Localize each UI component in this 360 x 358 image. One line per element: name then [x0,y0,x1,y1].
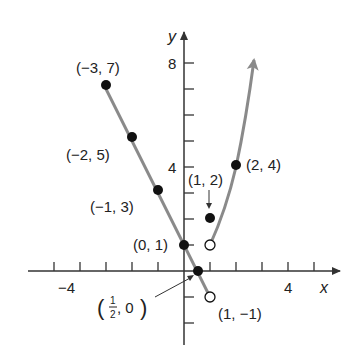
x-axis-label: x [319,279,329,296]
svg-text:1: 1 [110,295,116,306]
svg-text:(: ( [97,295,105,320]
label-0-1: (0, 1) [133,236,168,253]
x-tick-label-4: 4 [284,279,292,296]
axes [28,32,340,345]
point-neg1-3 [153,185,163,195]
point-0-1 [179,240,189,250]
label-half-0: ( 1 2 , 0 ) [97,295,147,320]
point-half-0 [193,266,203,276]
svg-text:, 0: , 0 [117,299,134,316]
open-point-1-1 [205,240,215,250]
y-tick-label-8: 8 [168,55,176,72]
point-2-4 [231,160,241,170]
label-neg2-5: (−2, 5) [66,146,110,163]
label-neg1-3: (−1, 3) [90,198,134,215]
piecewise-function-graph: x y −4 4 4 8 (−3, 7) (−2, 5) (−1, 3) (0,… [0,0,360,358]
y-axis-label: y [167,28,177,45]
label-1-neg1: (1, −1) [218,305,262,322]
label-2-4: (2, 4) [246,156,281,173]
open-point-1-neg1 [205,292,215,302]
label-neg3-7: (−3, 7) [76,59,120,76]
y-ticks [184,63,194,323]
points [101,80,241,302]
svg-text:): ) [140,295,147,320]
x-tick-label-neg4: −4 [58,279,75,296]
point-neg2-5 [127,132,137,142]
pointer-half-0 [155,277,192,297]
pointer-1-2-arrowhead [206,203,212,209]
point-neg3-7 [101,80,111,90]
svg-text:2: 2 [110,309,116,320]
label-1-2: (1, 2) [188,171,223,188]
point-1-2 [205,213,215,223]
pointer-half-0-arrowhead [187,275,194,281]
quadratic-curve [210,60,254,245]
y-tick-label-4: 4 [168,159,176,176]
